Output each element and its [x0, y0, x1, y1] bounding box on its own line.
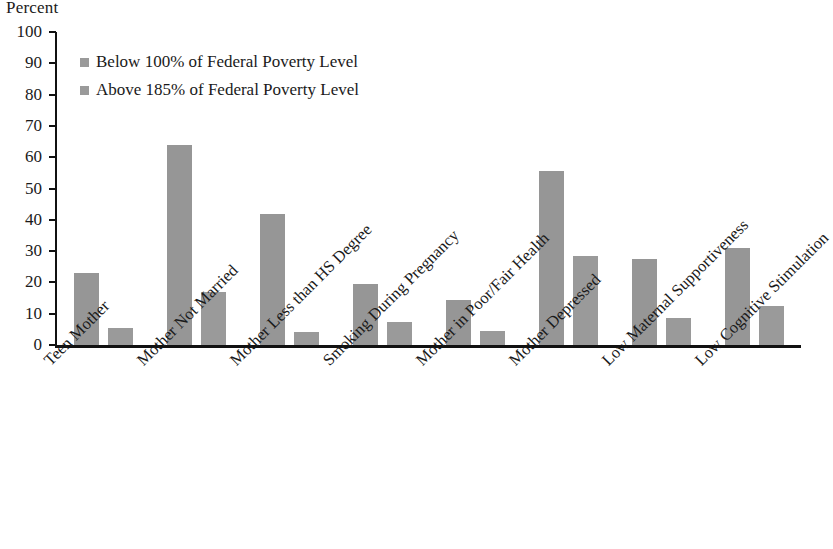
- bar: [666, 318, 691, 345]
- bar: [480, 331, 505, 345]
- bar: [108, 328, 133, 345]
- bar: [294, 332, 319, 345]
- bar: [387, 322, 412, 345]
